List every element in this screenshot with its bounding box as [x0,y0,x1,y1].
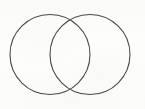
venn-diagram-canvas [0,0,145,109]
venn-diagram-svg [0,0,145,109]
